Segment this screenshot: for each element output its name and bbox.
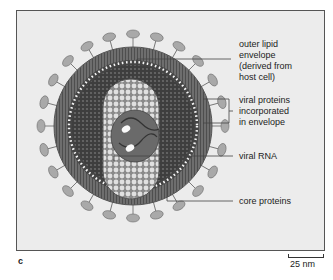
panel-letter: c [18, 256, 23, 266]
label-core-proteins: core proteins [239, 196, 291, 207]
scale-bar-line [288, 254, 324, 258]
label-viral-rna: viral RNA [239, 151, 277, 162]
label-viral-proteins: viral proteins incorporated in envelope [239, 95, 290, 128]
scale-bar-label: 25 nm [290, 259, 315, 269]
label-outer-lipid-envelope: outer lipid envelope (derived from host … [239, 39, 292, 83]
viral-rna [111, 110, 159, 162]
diagram-panel: outer lipid envelope (derived from host … [16, 10, 325, 251]
